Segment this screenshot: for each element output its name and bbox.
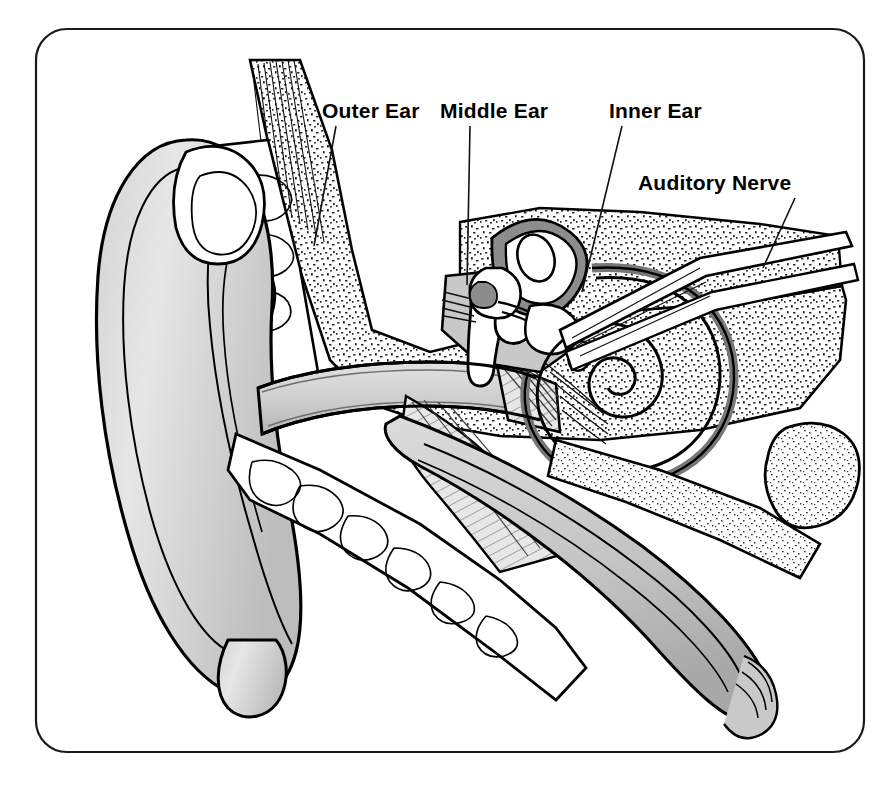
label-auditory-nerve: Auditory Nerve: [638, 171, 791, 194]
tragus-cartilage: [174, 146, 265, 264]
label-middle-ear: Middle Ear: [440, 99, 548, 122]
label-inner-ear: Inner Ear: [609, 99, 702, 122]
label-outer-ear: Outer Ear: [322, 99, 420, 122]
ear-anatomy-diagram: Outer Ear Middle Ear Inner Ear Auditory …: [0, 0, 883, 789]
ear-cross-section-illustration: Outer Ear Middle Ear Inner Ear Auditory …: [0, 0, 883, 789]
